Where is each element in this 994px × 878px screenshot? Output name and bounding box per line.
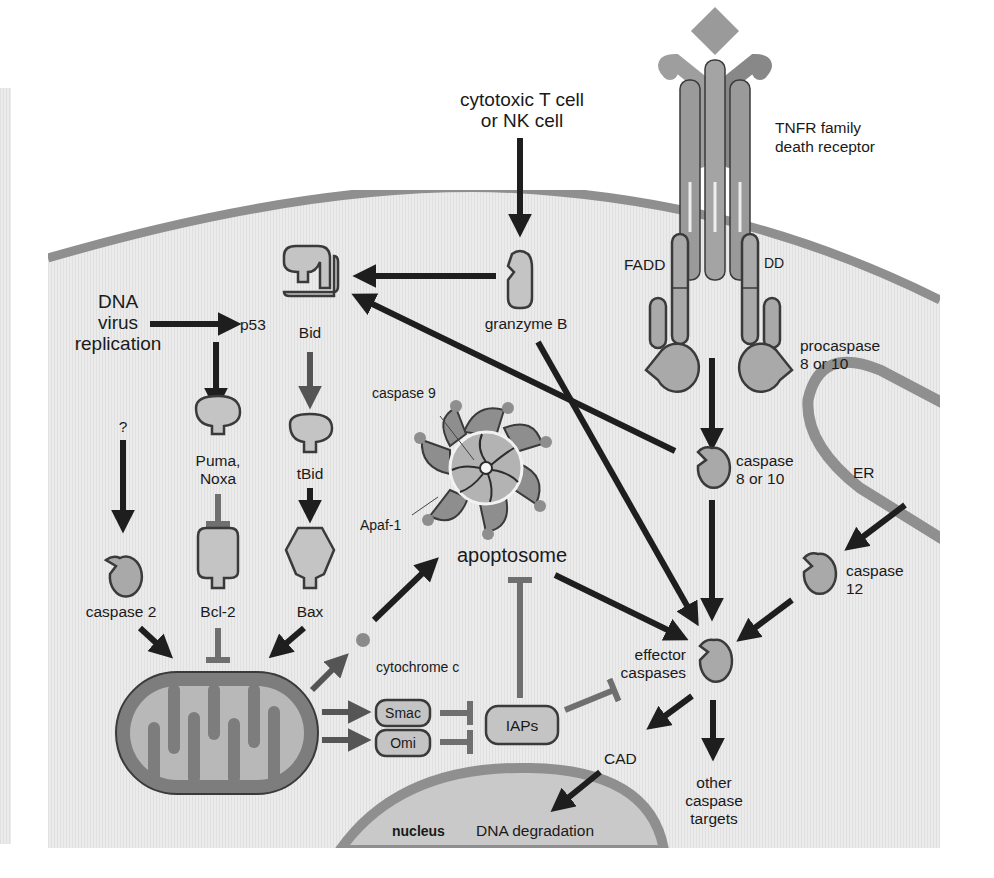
killer-cell-label: cytotoxic T cell bbox=[460, 89, 584, 110]
dd-label: DD bbox=[764, 255, 784, 271]
svg-text:caspase: caspase bbox=[685, 792, 743, 809]
svg-text:8 or 10: 8 or 10 bbox=[800, 355, 849, 372]
dna-degradation-label: DNA degradation bbox=[476, 822, 594, 839]
apoptosis-diagram: cytotoxic T cell or NK cell TNFR family … bbox=[0, 0, 994, 878]
tbid-label: tBid bbox=[297, 465, 324, 482]
caspase2-label: caspase 2 bbox=[86, 603, 157, 620]
bid-label: Bid bbox=[299, 324, 321, 341]
apoptosome-label: apoptosome bbox=[457, 544, 567, 566]
effector-caspase-protein bbox=[700, 640, 732, 682]
svg-text:Noxa: Noxa bbox=[200, 470, 237, 487]
dna-virus-label: DNA bbox=[98, 291, 138, 312]
effector-label: effector bbox=[635, 646, 686, 663]
svg-text:caspases: caspases bbox=[621, 664, 687, 681]
omi-label: Omi bbox=[390, 735, 416, 751]
bcl2-protein bbox=[198, 528, 238, 588]
er-label: ER bbox=[853, 464, 875, 481]
svg-text:8 or 10: 8 or 10 bbox=[736, 470, 785, 487]
caspase9-label: caspase 9 bbox=[372, 385, 436, 401]
svg-text:12: 12 bbox=[846, 580, 863, 597]
caspase-12-protein bbox=[804, 553, 836, 593]
granzyme-label: granzyme B bbox=[485, 315, 568, 332]
mitochondrion bbox=[116, 672, 318, 794]
bcl2-label: Bcl-2 bbox=[200, 603, 235, 620]
granzyme-b-protein bbox=[508, 251, 532, 308]
caspase-8-protein bbox=[698, 447, 730, 487]
smac-label: Smac bbox=[385, 705, 421, 721]
iaps-label: IAPs bbox=[506, 717, 539, 734]
apaf1-label: Apaf-1 bbox=[360, 517, 401, 533]
cad-label: CAD bbox=[604, 750, 637, 767]
svg-text:targets: targets bbox=[690, 810, 738, 827]
puma-noxa-label: Puma, bbox=[196, 452, 241, 469]
nucleus-label: nucleus bbox=[392, 823, 445, 839]
fadd-label: FADD bbox=[624, 256, 665, 273]
svg-text:virus: virus bbox=[98, 312, 138, 333]
left-edge-strip bbox=[0, 88, 11, 844]
question-label: ? bbox=[119, 418, 128, 435]
cytochrome-label: cytochrome c bbox=[376, 659, 459, 675]
procaspase-label: procaspase bbox=[800, 337, 880, 354]
svg-text:or NK cell: or NK cell bbox=[481, 110, 563, 131]
death-receptor-label: TNFR family bbox=[775, 119, 861, 136]
svg-text:death receptor: death receptor bbox=[775, 138, 875, 155]
svg-text:replication: replication bbox=[75, 333, 162, 354]
cytochrome-c-molecule bbox=[356, 633, 370, 647]
caspase12-label: caspase bbox=[846, 562, 904, 579]
p53-label: p53 bbox=[240, 316, 266, 333]
other-targets-label: other bbox=[696, 774, 731, 791]
caspase8-label: caspase bbox=[736, 452, 794, 469]
bax-label: Bax bbox=[297, 603, 324, 620]
